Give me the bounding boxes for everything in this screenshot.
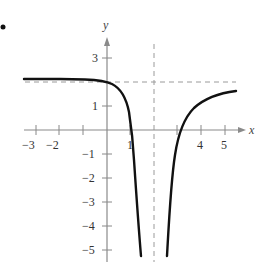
y-tick-label: −5	[82, 243, 95, 257]
y-tick-label: −2	[82, 171, 95, 185]
y-axis-arrow-icon	[104, 37, 110, 46]
y-tick-label: 3	[92, 51, 98, 65]
y-axis	[102, 37, 112, 262]
function-graph: y x −3 −2 1 4 5 3 1 −1 −2 −3 −4 −5	[0, 0, 264, 265]
x-tick-label: −3	[22, 138, 35, 152]
y-tick-label: −1	[82, 147, 95, 161]
x-tick-label: 5	[221, 138, 227, 152]
x-axis	[24, 125, 246, 135]
bullet-marker	[1, 25, 6, 30]
y-tick-label: 1	[92, 99, 98, 113]
x-axis-arrow-icon	[238, 127, 246, 133]
x-tick-label: −2	[46, 138, 59, 152]
y-tick-label: −4	[82, 219, 95, 233]
y-axis-label: y	[102, 18, 109, 32]
y-tick-label: −3	[82, 195, 95, 209]
curve-right-branch	[167, 91, 236, 256]
x-axis-label: x	[248, 123, 255, 137]
x-tick-label: 4	[197, 138, 203, 152]
